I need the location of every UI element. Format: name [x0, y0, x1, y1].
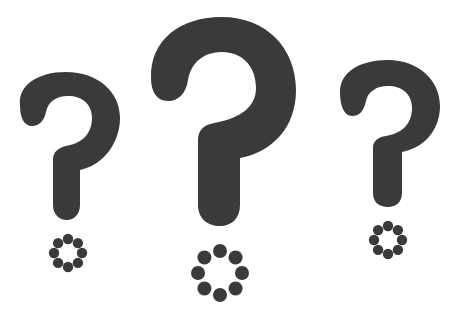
- question-mark-left-hook-icon: [20, 72, 120, 220]
- question-mark-right-dot-ring-icon: [369, 221, 407, 259]
- ring-dot: [373, 245, 383, 255]
- question-mark-center-dot-ring-icon: [191, 244, 249, 302]
- question-mark-left-dot-ring-icon: [49, 234, 87, 272]
- ring-dot: [63, 262, 73, 272]
- ring-dot: [393, 225, 403, 235]
- ring-dot: [191, 266, 205, 280]
- ring-dot: [53, 258, 63, 268]
- ring-dot: [397, 235, 407, 245]
- ring-dot: [73, 258, 83, 268]
- question-mark-right-hook-icon: [340, 60, 440, 207]
- dotted-rings: [49, 221, 407, 302]
- ring-dot: [63, 234, 73, 244]
- ring-dot: [235, 266, 249, 280]
- ring-dot: [383, 221, 393, 231]
- question-marks-illustration: [0, 0, 464, 320]
- ring-dot: [229, 282, 243, 296]
- ring-dot: [197, 250, 211, 264]
- ring-dot: [73, 238, 83, 248]
- ring-dot: [49, 248, 59, 258]
- question-mark-right: [340, 60, 440, 207]
- ring-dot: [213, 244, 227, 258]
- ring-dot: [213, 288, 227, 302]
- question-mark-center: [151, 17, 296, 226]
- ring-dot: [229, 250, 243, 264]
- ring-dot: [53, 238, 63, 248]
- ring-dot: [383, 249, 393, 259]
- ring-dot: [369, 235, 379, 245]
- ring-dot: [77, 248, 87, 258]
- ring-dot: [373, 225, 383, 235]
- ring-dot: [393, 245, 403, 255]
- ring-dot: [197, 282, 211, 296]
- question-mark-left: [20, 72, 120, 220]
- question-mark-center-hook-icon: [151, 17, 296, 226]
